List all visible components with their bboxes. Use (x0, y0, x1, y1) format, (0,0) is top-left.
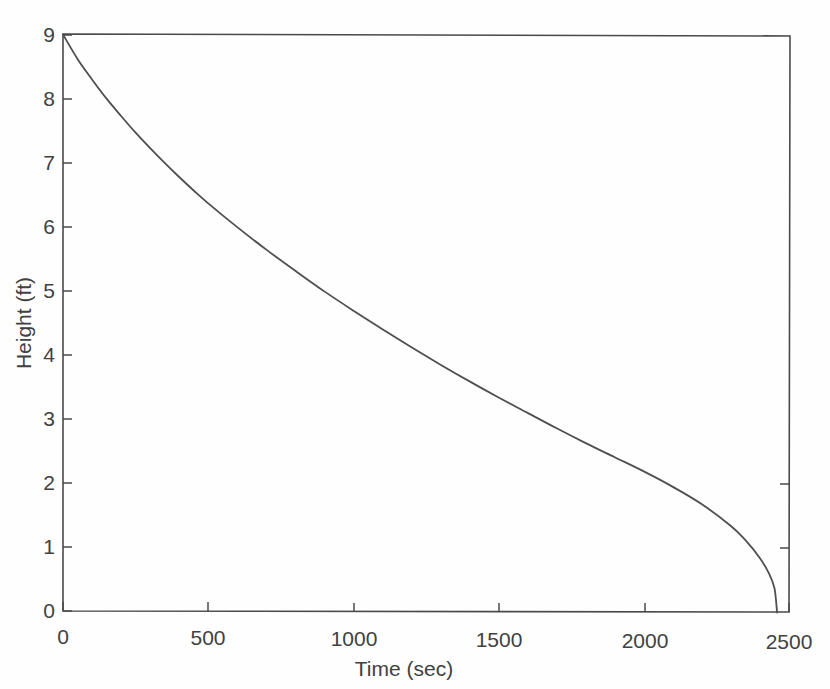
x-tick-label-2500: 2500 (766, 630, 813, 653)
y-tick-label-2: 2 (43, 471, 55, 494)
y-tick-label-7: 7 (43, 151, 55, 174)
y-tick-label-0: 0 (43, 599, 55, 622)
x-tick-label-500: 500 (190, 626, 225, 649)
y-tick-label-8: 8 (43, 87, 55, 110)
y-tick-label-6: 6 (43, 215, 55, 238)
y-tick-label-3: 3 (43, 407, 55, 430)
y-axis-ticks (63, 35, 72, 611)
y-axis-title: Height (ft) (12, 277, 35, 369)
x-tick-label-1500: 1500 (476, 628, 523, 651)
caption-strip (0, 673, 830, 689)
figure-canvas: 0 1 2 3 4 5 6 7 8 9 0 500 (0, 0, 830, 689)
y-tick-label-1: 1 (43, 535, 55, 558)
height-curve (63, 35, 777, 613)
height-vs-time-chart: 0 1 2 3 4 5 6 7 8 9 0 500 (0, 0, 830, 689)
x-tick-label-0: 0 (57, 625, 69, 648)
x-tick-label-1000: 1000 (331, 627, 378, 650)
y-tick-label-9: 9 (43, 23, 55, 46)
axis-box (63, 34, 790, 612)
x-axis-tick-labels: 0 500 1000 1500 2000 2500 (57, 625, 812, 653)
y-tick-label-4: 4 (43, 343, 55, 366)
x-tick-label-2000: 2000 (622, 629, 669, 652)
right-axis-ticks (780, 484, 789, 548)
y-tick-label-5: 5 (43, 279, 55, 302)
y-axis-tick-labels: 0 1 2 3 4 5 6 7 8 9 (43, 23, 55, 622)
plot-frame (63, 34, 790, 612)
